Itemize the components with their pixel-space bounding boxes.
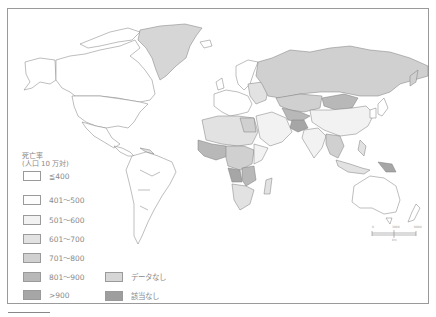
legend-label: 401～500 [49, 194, 85, 205]
legend-label: 601～700 [49, 233, 85, 244]
region-canada [56, 40, 155, 102]
legend-swatch [23, 215, 41, 225]
legend-label: 該当なし [131, 290, 159, 301]
legend-item: ≦400 [23, 171, 70, 181]
scale-bar [372, 230, 416, 238]
region-south-america [126, 152, 176, 244]
region-mongolia [322, 94, 358, 110]
region-iceland [200, 40, 212, 48]
legend-item: 401～500 [23, 194, 85, 205]
region-russia [256, 46, 428, 98]
legend-swatch [105, 291, 123, 301]
legend-label: データなし [131, 271, 166, 282]
legend-swatch [23, 290, 41, 300]
region-new-zealand [408, 204, 420, 222]
legend-title-line1: 死亡率 [22, 152, 69, 160]
region-uk [216, 78, 224, 90]
legend-swatch [23, 272, 41, 282]
region-east-africa [242, 166, 256, 186]
scale-unit: km [392, 238, 397, 242]
legend-label: ≦400 [49, 172, 70, 181]
region-alaska [24, 58, 56, 90]
legend-label: 801～900 [49, 271, 85, 282]
region-southeast-asia [326, 134, 344, 158]
legend-swatch [23, 195, 41, 205]
scale-label: 3000 [392, 225, 400, 229]
region-madagascar [264, 178, 272, 194]
legend-item: >900 [23, 290, 70, 300]
region-australia [352, 176, 400, 214]
region-central-america [114, 146, 134, 156]
region-southern-africa [232, 184, 254, 210]
legend-label: 701～800 [49, 252, 85, 263]
region-philippines [358, 140, 366, 156]
region-angola [228, 168, 242, 182]
legend-swatch [23, 253, 41, 263]
legend-item: 501～600 [23, 214, 85, 225]
legend-item: 701～800 [23, 252, 85, 263]
region-korea [370, 108, 376, 118]
legend-swatch [23, 234, 41, 244]
legend-item-not-applicable: 該当なし [105, 290, 159, 301]
legend-label: 501～600 [49, 214, 85, 225]
region-greenland [138, 24, 202, 80]
legend-item-no-data: データなし [105, 271, 166, 282]
region-western-europe [214, 90, 252, 116]
region-central-africa [226, 146, 254, 170]
legend-swatch [23, 171, 41, 181]
region-indonesia [336, 160, 370, 174]
map-legend: 死亡率 (人口 10 万対) [22, 152, 69, 168]
scale-label: 6000 [414, 225, 422, 229]
legend-item: 601～700 [23, 233, 85, 244]
legend-swatch [105, 272, 123, 282]
footer-rule [8, 312, 50, 313]
legend-item: 801～900 [23, 271, 85, 282]
legend-label: >900 [49, 291, 70, 300]
region-india [302, 128, 326, 158]
scale-label: 0 [372, 225, 374, 229]
region-tasmania [386, 218, 392, 224]
region-horn-africa [254, 144, 268, 164]
legend-title-line2: (人口 10 万対) [22, 160, 69, 168]
region-png [378, 162, 396, 172]
region-japan [378, 98, 388, 116]
